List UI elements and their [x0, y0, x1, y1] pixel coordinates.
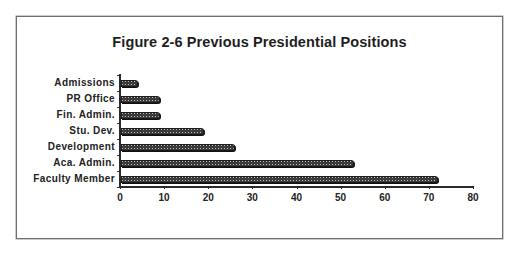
x-tick-label: 10: [152, 192, 176, 203]
category-label: Fin. Admin.: [57, 109, 115, 121]
category-label: PR Office: [66, 93, 115, 105]
x-tick-label: 60: [373, 192, 397, 203]
x-tick-label: 0: [108, 192, 132, 203]
bar-admissions: [121, 80, 138, 87]
category-label: Development: [48, 141, 115, 153]
bar-faculty-member: [121, 176, 438, 183]
bar-pr-office: [121, 96, 160, 103]
x-axis: [119, 186, 474, 188]
category-label: Faculty Member: [33, 173, 115, 185]
category-label: Aca. Admin.: [53, 157, 115, 169]
category-label: Stu. Dev.: [69, 125, 115, 137]
x-tick-label: 80: [461, 192, 485, 203]
x-tick-label: 70: [417, 192, 441, 203]
bar-development: [121, 144, 235, 151]
x-tick-label: 40: [285, 192, 309, 203]
chart-title: Figure 2-6 Previous Presidential Positio…: [16, 34, 503, 50]
y-axis: [119, 74, 121, 187]
bar-aca-admin: [121, 160, 354, 167]
category-label: Admissions: [54, 77, 115, 89]
x-tick-label: 50: [329, 192, 353, 203]
bar-stu-dev: [121, 128, 204, 135]
x-tick-label: 20: [196, 192, 220, 203]
bar-fin-admin: [121, 112, 160, 119]
x-tick-label: 30: [240, 192, 264, 203]
